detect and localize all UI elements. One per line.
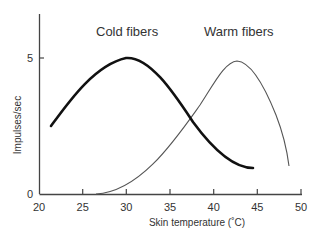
warm-fibers-label: Warm fibers — [204, 24, 274, 39]
cold-fibers-label: Cold fibers — [96, 24, 159, 39]
cold-fibers-curve — [51, 58, 253, 168]
svg-text:30: 30 — [120, 201, 132, 213]
y-tick-label-0: 0 — [27, 188, 33, 200]
svg-text:40: 40 — [208, 201, 220, 213]
y-tick-label-5: 5 — [27, 52, 33, 64]
y-axis-label: Impulses/sec — [12, 96, 23, 154]
svg-text:25: 25 — [77, 201, 89, 213]
svg-text:45: 45 — [251, 201, 263, 213]
chart: 5 0 20 25 30 35 40 45 50 Skin temperatur… — [0, 0, 317, 234]
x-axis-label: Skin temperature (˚C) — [149, 217, 245, 228]
svg-text:20: 20 — [33, 201, 45, 213]
warm-fibers-curve — [96, 61, 289, 194]
svg-text:50: 50 — [295, 201, 307, 213]
svg-text:35: 35 — [164, 201, 176, 213]
x-tick-labels: 20 25 30 35 40 45 50 — [33, 201, 307, 213]
